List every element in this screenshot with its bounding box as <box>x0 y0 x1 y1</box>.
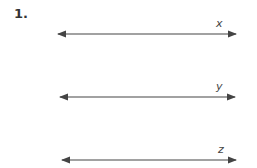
line-z-label: z <box>218 143 224 156</box>
line-y-label: y <box>216 80 223 93</box>
line-x-label: x <box>216 17 223 30</box>
